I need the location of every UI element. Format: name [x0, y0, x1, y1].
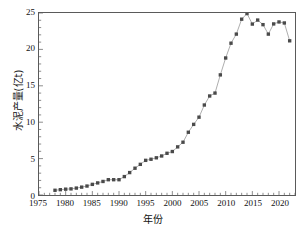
- data-point: [107, 178, 110, 181]
- x-tick-label: 2000: [157, 199, 187, 208]
- x-tick-label: 2020: [265, 199, 295, 208]
- data-point: [139, 163, 142, 166]
- data-point: [101, 180, 104, 183]
- data-point: [192, 123, 195, 126]
- axis-tick-marks: [39, 13, 295, 195]
- x-tick-label: 1980: [50, 199, 80, 208]
- data-point: [245, 13, 248, 15]
- data-point: [96, 181, 99, 184]
- data-point: [240, 18, 243, 21]
- data-point: [219, 73, 222, 76]
- data-point: [229, 42, 232, 45]
- data-point: [128, 171, 131, 174]
- data-point: [80, 185, 83, 188]
- data-point: [59, 188, 62, 191]
- data-point: [187, 131, 190, 134]
- data-point: [203, 103, 206, 106]
- data-series-svg: [39, 13, 295, 195]
- y-tick-label: 20: [26, 44, 35, 53]
- x-tick-label: 1985: [77, 199, 107, 208]
- data-point: [267, 32, 270, 35]
- data-point: [288, 39, 291, 42]
- y-tick-label: 10: [26, 118, 35, 127]
- x-tick-label: 1995: [131, 199, 161, 208]
- data-point: [112, 178, 115, 181]
- data-point: [117, 178, 120, 181]
- x-tick-label: 1990: [104, 199, 134, 208]
- x-axis-tick-labels: 1975198019851990199520002005201020152020: [0, 199, 306, 211]
- data-point: [272, 22, 275, 25]
- data-point: [144, 159, 147, 162]
- data-point: [224, 56, 227, 59]
- data-point: [261, 23, 264, 26]
- data-point: [235, 32, 238, 35]
- plot-area: [38, 12, 296, 196]
- data-point: [176, 145, 179, 148]
- x-axis-title: 年份: [0, 214, 306, 226]
- data-point: [283, 21, 286, 24]
- series-markers: [53, 13, 291, 192]
- data-point: [213, 91, 216, 94]
- x-tick-label: 1975: [23, 199, 53, 208]
- x-tick-label: 2010: [211, 199, 241, 208]
- data-point: [69, 187, 72, 190]
- data-point: [165, 152, 168, 155]
- data-point: [133, 167, 136, 170]
- data-point: [256, 18, 259, 21]
- data-point: [251, 22, 254, 25]
- series-line: [55, 14, 290, 191]
- data-point: [149, 158, 152, 161]
- data-point: [53, 189, 56, 192]
- data-point: [155, 156, 158, 159]
- data-point: [277, 20, 280, 23]
- data-point: [181, 141, 184, 144]
- data-point: [64, 187, 67, 190]
- data-point: [75, 186, 78, 189]
- data-point: [91, 183, 94, 186]
- y-tick-label: 25: [26, 8, 35, 17]
- data-point: [123, 175, 126, 178]
- y-tick-label: 15: [26, 81, 35, 90]
- data-point: [160, 154, 163, 157]
- y-tick-label: 5: [31, 155, 36, 164]
- data-point: [197, 115, 200, 118]
- x-tick-label: 2005: [184, 199, 214, 208]
- x-tick-label: 2015: [238, 199, 268, 208]
- data-point: [85, 184, 88, 187]
- data-point: [171, 150, 174, 153]
- data-point: [208, 94, 211, 97]
- cement-production-chart: 水泥产量(亿t) 0510152025 19751980198519901995…: [0, 0, 306, 235]
